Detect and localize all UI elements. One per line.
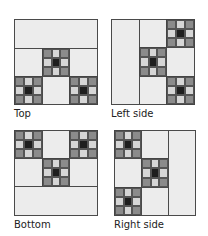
plain-square	[69, 158, 98, 187]
plain-strip	[168, 130, 196, 216]
panel-label-bottom: Bottom	[14, 219, 51, 230]
ninepatch-block	[14, 76, 43, 105]
panel-label-left-side: Left side	[111, 108, 153, 119]
plain-square	[139, 76, 167, 105]
ninepatch-block	[166, 76, 195, 105]
plain-strip	[14, 19, 98, 49]
plain-square	[166, 47, 195, 77]
ninepatch-block	[139, 47, 167, 77]
plain-square	[42, 76, 70, 105]
plain-square	[139, 19, 167, 48]
plain-square	[114, 158, 142, 188]
ninepatch-block	[114, 130, 142, 159]
plain-square	[141, 130, 169, 159]
ninepatch-block	[42, 158, 70, 187]
panel-bottom	[14, 130, 98, 216]
ninepatch-block	[42, 48, 70, 77]
ninepatch-block	[141, 158, 169, 188]
ninepatch-block	[114, 187, 142, 216]
panel-label-right-side: Right side	[114, 219, 164, 230]
ninepatch-block	[69, 130, 98, 159]
ninepatch-block	[14, 130, 43, 159]
plain-strip	[14, 186, 98, 216]
plain-square	[42, 130, 70, 159]
ninepatch-block	[69, 76, 98, 105]
plain-square	[14, 48, 43, 77]
panel-top	[14, 19, 98, 105]
panel-right-side	[114, 130, 196, 216]
plain-square	[14, 158, 43, 187]
ninepatch-block	[166, 19, 195, 48]
plain-strip	[111, 19, 140, 105]
panel-left-side	[111, 19, 195, 105]
plain-square	[69, 48, 98, 77]
plain-square	[141, 187, 169, 216]
panel-label-top: Top	[14, 108, 31, 119]
